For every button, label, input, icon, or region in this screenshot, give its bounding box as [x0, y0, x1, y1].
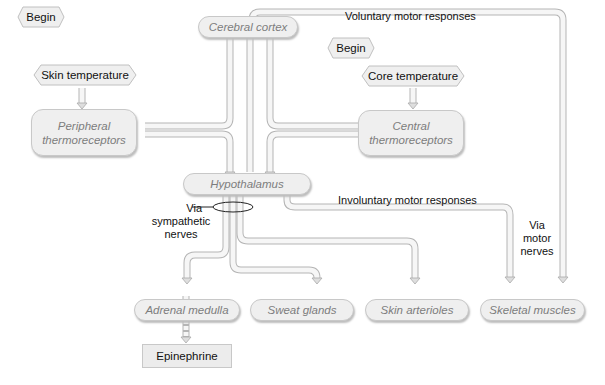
via-sympathetic-label: Via sympathetic nerves	[148, 202, 214, 241]
begin-marker-right: Begin	[327, 37, 375, 59]
adrenal-medulla-node: Adrenal medulla	[134, 299, 240, 321]
involuntary-motor-label: Involuntary motor responses	[338, 194, 477, 207]
hypothalamus-node: Hypothalamus	[183, 173, 311, 195]
skin-arterioles-node: Skin arterioles	[365, 299, 469, 321]
core-temperature-input: Core temperature	[361, 65, 465, 87]
central-thermoreceptors-node: Central thermoreceptors	[358, 110, 464, 156]
voluntary-motor-label: Voluntary motor responses	[345, 10, 476, 23]
skin-temperature-input: Skin temperature	[33, 64, 137, 86]
begin-marker-left: Begin	[17, 6, 65, 28]
sweat-glands-node: Sweat glands	[250, 299, 354, 321]
epinephrine-box: Epinephrine	[142, 344, 232, 368]
cerebral-cortex-node: Cerebral cortex	[198, 16, 298, 38]
peripheral-thermoreceptors-node: Peripheral thermoreceptors	[31, 109, 137, 156]
skeletal-muscles-node: Skeletal muscles	[480, 299, 585, 321]
via-motor-label: Via motor nerves	[519, 219, 555, 258]
